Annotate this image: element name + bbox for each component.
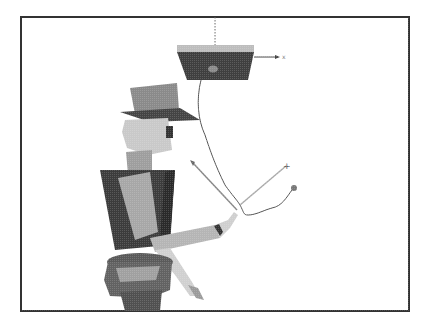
rendered-scene: x + — [0, 0, 431, 325]
dither-overlay — [21, 17, 409, 311]
